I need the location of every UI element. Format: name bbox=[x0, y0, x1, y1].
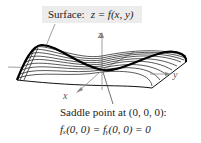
label-leader-line bbox=[46, 24, 55, 46]
saddle-point-caption: Saddle point at (0, 0, 0): bbox=[60, 106, 167, 118]
z-axis-label: z bbox=[97, 29, 102, 40]
saddle-surface bbox=[17, 45, 186, 88]
partial-derivatives-caption: fₓ(0, 0) = fᵧ(0, 0) = 0 bbox=[60, 123, 151, 135]
saddle-surface-diagram: z y x bbox=[0, 0, 201, 143]
x-axis-label: x bbox=[62, 90, 68, 101]
y-axis-label: y bbox=[172, 69, 178, 80]
